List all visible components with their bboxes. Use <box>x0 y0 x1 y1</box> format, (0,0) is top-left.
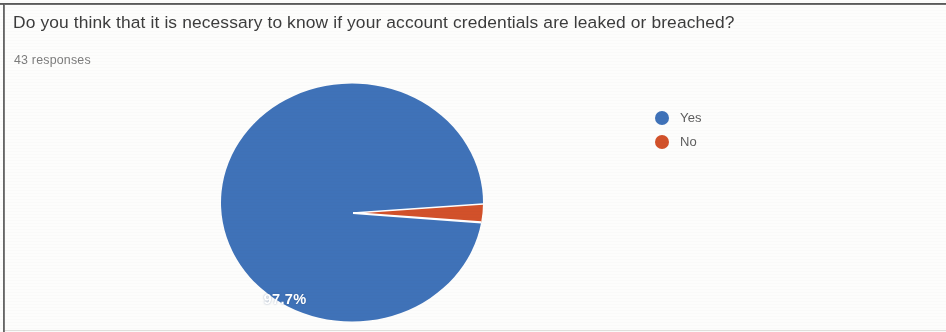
page-frame-top-rule <box>0 3 946 5</box>
legend-item-label: No <box>680 135 697 149</box>
legend-item-no[interactable]: No <box>655 130 805 154</box>
survey-chart-screenshot: Do you think that it is necessary to kno… <box>0 0 946 332</box>
response-count-label: 43 responses <box>14 52 91 68</box>
circle-swatch-icon <box>655 135 669 149</box>
pie-chart-svg <box>222 94 484 332</box>
circle-swatch-icon <box>655 111 669 125</box>
legend-item-label: Yes <box>680 111 702 125</box>
pie-chart: 97.7% Yes No <box>0 78 946 332</box>
page-title: Do you think that it is necessary to kno… <box>13 11 945 33</box>
pie-slice-yes[interactable] <box>221 84 483 322</box>
chart-legend: Yes No <box>655 106 805 154</box>
legend-item-yes[interactable]: Yes <box>655 106 805 130</box>
